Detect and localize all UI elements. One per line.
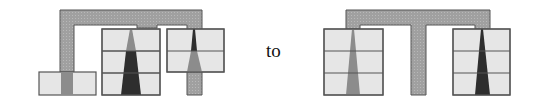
after-right-stack (453, 29, 510, 95)
before-configuration (39, 10, 224, 95)
before-middle-stack (102, 29, 160, 95)
connector-label: to (266, 40, 281, 62)
after-left-stack (324, 29, 383, 95)
after-configuration (324, 10, 510, 95)
before-single-box (39, 72, 96, 95)
before-right-stack (167, 29, 224, 72)
